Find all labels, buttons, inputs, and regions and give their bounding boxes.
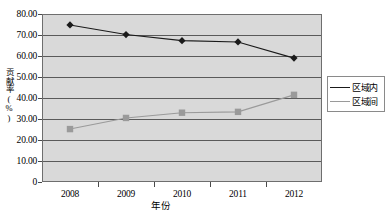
y-axis-tick-label: 0 bbox=[32, 177, 37, 187]
y-axis-tick-label: 20.00 bbox=[17, 135, 37, 145]
y-axis-tick-mark bbox=[38, 161, 42, 162]
y-axis-tick-label: 80.00 bbox=[17, 9, 37, 19]
legend-label: 区域间 bbox=[350, 95, 378, 108]
y-axis-tick-label: 30.00 bbox=[17, 114, 37, 124]
legend-item[interactable]: 区域间 bbox=[330, 94, 382, 108]
y-axis-tick-mark bbox=[38, 35, 42, 36]
y-axis-tick-label: 50.00 bbox=[17, 72, 37, 82]
y-axis-tick-mark bbox=[38, 77, 42, 78]
y-axis-tick-label: 10.00 bbox=[17, 156, 37, 166]
chart-container: 80.0070.0060.0050.0040.0030.0020.0010.00… bbox=[0, 0, 388, 214]
x-axis-tick-label: 2011 bbox=[229, 189, 247, 199]
data-point-square-icon bbox=[123, 115, 129, 121]
y-axis-tick-mark bbox=[38, 56, 42, 57]
y-axis-tick-mark bbox=[38, 140, 42, 141]
legend-item[interactable]: 区域内 bbox=[330, 80, 382, 94]
y-axis-tick-label: 70.00 bbox=[17, 30, 37, 40]
x-axis-tick-label: 2008 bbox=[61, 189, 79, 199]
data-point-square-icon bbox=[291, 92, 297, 98]
y-axis-title: 贡献率(%) bbox=[1, 68, 14, 122]
x-axis-tick-label: 2010 bbox=[173, 189, 191, 199]
x-axis-title: 年份 bbox=[0, 198, 322, 212]
x-axis-tick-mark bbox=[210, 182, 211, 187]
y-axis-tick-label: 40.00 bbox=[17, 93, 37, 103]
series-layer bbox=[42, 14, 322, 182]
data-point-diamond-icon bbox=[66, 21, 73, 28]
x-axis-tick-label: 2012 bbox=[285, 189, 303, 199]
x-axis-tick-label: 2009 bbox=[117, 189, 135, 199]
data-point-diamond-icon bbox=[290, 55, 297, 62]
y-axis-tick-mark bbox=[38, 119, 42, 120]
data-point-diamond-icon bbox=[122, 31, 129, 38]
y-axis-tick-mark bbox=[38, 182, 42, 183]
y-axis-tick-mark bbox=[38, 14, 42, 15]
x-axis-tick-mark bbox=[98, 182, 99, 187]
legend-marker-diamond-icon bbox=[330, 81, 350, 93]
x-axis-tick-mark bbox=[154, 182, 155, 187]
data-point-diamond-icon bbox=[178, 37, 185, 44]
y-axis-tick-label: 60.00 bbox=[17, 51, 37, 61]
x-axis-tick-mark bbox=[266, 182, 267, 187]
data-point-square-icon bbox=[179, 110, 185, 116]
data-point-square-icon bbox=[67, 126, 73, 132]
chart-legend: 区域内 区域间 bbox=[327, 76, 385, 112]
legend-label: 区域内 bbox=[350, 81, 378, 94]
legend-marker-square-icon bbox=[330, 95, 350, 107]
y-axis-tick-mark bbox=[38, 98, 42, 99]
data-point-diamond-icon bbox=[234, 38, 241, 45]
data-point-square-icon bbox=[235, 109, 241, 115]
